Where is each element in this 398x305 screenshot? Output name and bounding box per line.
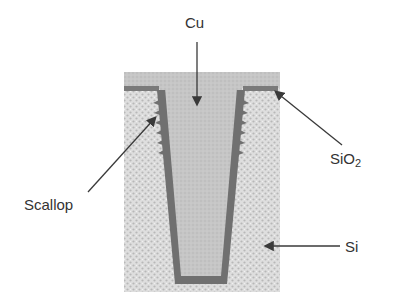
label-sio2: SiO2 [330, 150, 361, 169]
copper-fill-top [160, 72, 242, 90]
label-cu: Cu [185, 14, 204, 31]
label-sio2-sub: 2 [355, 157, 361, 169]
label-si: Si [345, 238, 358, 255]
label-scallop: Scallop [24, 196, 73, 213]
sio2-layer-right [243, 86, 278, 91]
label-sio2-main: SiO [330, 150, 355, 167]
sio2-arrow [276, 92, 342, 145]
sio2-layer-left [124, 86, 159, 91]
